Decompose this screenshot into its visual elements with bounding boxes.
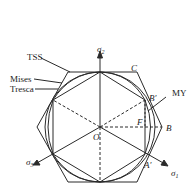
sigma3-arrowhead xyxy=(33,160,40,165)
dashed-upper-left xyxy=(53,100,100,127)
point-b-label: B xyxy=(166,123,172,133)
mises-leader xyxy=(34,79,62,83)
tss-leader xyxy=(41,58,70,72)
sigma1-arrowhead xyxy=(161,160,168,166)
tss-label: TSS xyxy=(27,52,43,62)
sigma1-axis xyxy=(100,127,165,164)
tresca-label: Tresca xyxy=(10,84,34,94)
mises-label: Mises xyxy=(10,74,32,84)
sigma3-axis xyxy=(37,127,100,163)
point-f-label: F xyxy=(136,117,143,127)
point-bprime-label: B′ xyxy=(149,93,157,103)
point-c-label: C xyxy=(131,63,138,73)
my-label: MY xyxy=(172,88,187,98)
sigma3-label: σ3 xyxy=(26,157,33,168)
sigma1-label: σ1 xyxy=(171,168,178,179)
origin-label: O xyxy=(93,132,100,142)
yield-criteria-diagram: TSS Mises Tresca MY σ2 σ1 σ3 O C B B′ A′… xyxy=(0,0,195,194)
point-aprime-label: A′ xyxy=(143,160,152,170)
sigma2-label: σ2 xyxy=(97,44,104,55)
